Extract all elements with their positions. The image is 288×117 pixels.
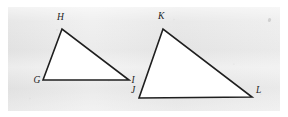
triangle-jkl-shape (139, 29, 252, 98)
figure-canvas (0, 0, 288, 117)
vertex-label-g: G (34, 76, 41, 86)
triangle-ghi-polygon (43, 29, 129, 80)
geometry-figure: G H I J K L (0, 0, 288, 117)
triangle-ghi-shape (43, 29, 129, 80)
vertex-label-j: J (131, 86, 135, 96)
triangle-jkl-polygon (139, 29, 252, 98)
vertex-label-l: L (256, 86, 261, 96)
vertex-label-h: H (57, 13, 64, 23)
vertex-label-i: I (132, 76, 135, 86)
vertex-label-k: K (158, 12, 164, 22)
